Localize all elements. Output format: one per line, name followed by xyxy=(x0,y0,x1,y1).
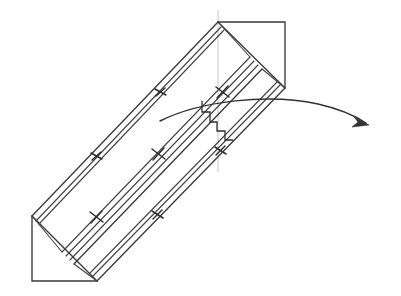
tick-upper-edge-2 xyxy=(91,152,102,160)
far-end-cap-square xyxy=(218,22,285,88)
upper-left-long-face xyxy=(32,22,224,224)
tick-ridge-2 xyxy=(152,148,165,160)
technical-drawing-canvas xyxy=(0,0,401,296)
direction-arrow xyxy=(160,99,369,127)
figure-root xyxy=(0,0,401,296)
tick-ridge-3 xyxy=(90,211,103,223)
